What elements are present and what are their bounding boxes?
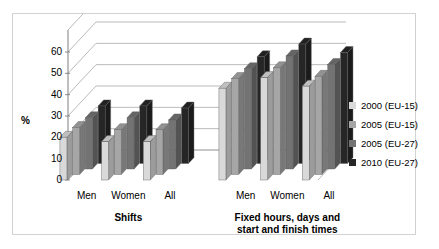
bar-side-face: [335, 58, 341, 169]
x-tick-label-3: Men: [223, 190, 269, 201]
legend-item-0[interactable]: 2000 (EU-15): [349, 96, 418, 115]
bar-side-face: [309, 80, 315, 180]
bar-side-face: [239, 73, 245, 175]
group-label-line-2: start and finish times: [202, 224, 372, 236]
legend-item-2[interactable]: 2005 (EU-27): [349, 134, 418, 153]
bar-side-face: [150, 136, 156, 180]
bar-front-face: [244, 69, 251, 169]
x-tick-label-2: All: [147, 190, 193, 201]
bar-women-shifts--2005-eu-27-: [127, 112, 140, 169]
legend-swatch-icon: [349, 159, 356, 166]
bar-side-face: [134, 112, 140, 169]
legend-item-label: 2005 (EU-27): [361, 138, 418, 149]
bar-men-shifts--2005-eu-27-: [85, 112, 98, 169]
bar-all-fixed-hours--2000-eu-15-: [302, 80, 315, 180]
bar-side-face: [176, 114, 182, 169]
bar-front-face: [73, 128, 80, 175]
bar-side-face: [280, 62, 286, 175]
bar-all-shifts--2000-eu-15-: [143, 136, 156, 180]
bar-men-fixed-hours--2005-eu-27-: [244, 63, 257, 169]
x-tick-label-0: Men: [64, 190, 110, 201]
bar-men-fixed-hours--2005-eu-15-: [232, 73, 245, 175]
bar-all-shifts--2005-eu-15-: [156, 124, 169, 175]
group-label-shifts: Shifts: [68, 212, 188, 224]
y-tick-label-0: 0: [36, 175, 62, 185]
y-tick-label-10: 10: [36, 154, 62, 164]
legend-item-label: 2000 (EU-15): [361, 100, 418, 111]
bar-men-fixed-hours--2000-eu-15-: [219, 82, 232, 180]
x-tick-label-4: Women: [264, 190, 310, 201]
legend-item-3[interactable]: 2010 (EU-27): [349, 153, 418, 172]
bar-side-face: [226, 82, 232, 180]
bar-front-face: [302, 86, 309, 180]
bar-women-shifts--2005-eu-15-: [114, 124, 127, 175]
y-axis-title: %: [21, 115, 30, 126]
bar-side-face: [67, 131, 73, 180]
legend-item-label: 2005 (EU-15): [361, 119, 418, 130]
bar-front-face: [232, 79, 239, 175]
bar-side-face: [121, 124, 127, 175]
legend-swatch-icon: [349, 121, 356, 128]
group-label-fixed-hours: Fixed hours, days andstart and finish ti…: [202, 212, 372, 236]
y-tick-label-20: 20: [36, 132, 62, 142]
bar-front-face: [315, 76, 322, 174]
bar-all-fixed-hours--2005-eu-27-: [328, 58, 341, 169]
y-tick-label-40: 40: [36, 90, 62, 100]
bar-front-face: [328, 64, 335, 169]
legend-item-1[interactable]: 2005 (EU-15): [349, 115, 418, 134]
bar-women-fixed-hours--2005-eu-15-: [273, 62, 286, 175]
bar-side-face: [251, 63, 257, 169]
bar-front-face: [340, 53, 347, 164]
legend-swatch-icon: [349, 140, 356, 147]
legend-swatch-icon: [349, 102, 356, 109]
bar-front-face: [169, 120, 176, 169]
y-tick-label-30: 30: [36, 111, 62, 121]
bar-side-face: [268, 72, 274, 180]
bar-all-shifts--2010-eu-27-: [181, 102, 194, 163]
bar-all-fixed-hours--2005-eu-15-: [315, 70, 328, 174]
bar-side-face: [322, 70, 328, 174]
bar-women-shifts--2000-eu-15-: [102, 136, 115, 180]
bar-side-face: [293, 50, 299, 169]
chart-container: % 2000 (EU-15)2005 (EU-15)2005 (EU-27)20…: [12, 13, 416, 235]
group-label-line-1: Fixed hours, days and: [202, 212, 372, 224]
bar-side-face: [188, 102, 194, 163]
bar-front-face: [127, 118, 134, 169]
bar-men-shifts--2005-eu-15-: [73, 122, 85, 175]
bar-front-face: [114, 130, 121, 175]
bar-front-face: [156, 130, 163, 175]
bar-front-face: [85, 118, 92, 169]
bar-front-face: [143, 142, 150, 180]
bars-group: [60, 38, 353, 180]
y-tick-label-60: 60: [36, 47, 62, 57]
bar-side-face: [80, 122, 86, 175]
bar-side-face: [92, 112, 98, 169]
bar-front-face: [286, 56, 293, 169]
bar-front-face: [102, 142, 109, 180]
bar-front-face: [219, 88, 226, 180]
bar-front-face: [181, 108, 188, 163]
bar-front-face: [261, 78, 268, 180]
bar-front-face: [273, 68, 280, 175]
x-tick-label-1: Women: [105, 190, 151, 201]
bar-all-shifts--2005-eu-27-: [169, 114, 182, 169]
bar-side-face: [163, 124, 169, 175]
bar-side-face: [109, 136, 115, 180]
chart-legend: 2000 (EU-15)2005 (EU-15)2005 (EU-27)2010…: [349, 96, 418, 172]
x-tick-label-5: All: [306, 190, 352, 201]
legend-item-label: 2010 (EU-27): [361, 157, 418, 168]
y-tick-label-50: 50: [36, 68, 62, 78]
bar-women-fixed-hours--2005-eu-27-: [286, 50, 299, 169]
bar-women-fixed-hours--2000-eu-15-: [261, 72, 274, 180]
